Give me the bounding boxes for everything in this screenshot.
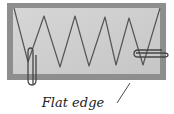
flat-edge-label: Flat edge xyxy=(41,95,105,110)
flat-edge-diagram: Flat edge xyxy=(0,0,174,114)
leader-line xyxy=(117,83,130,103)
